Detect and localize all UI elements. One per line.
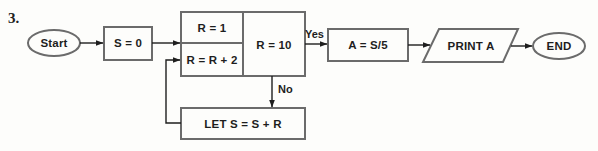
compute-a-node-label: A = S/5 bbox=[348, 39, 388, 51]
init-r-node-label: R = 1 bbox=[198, 22, 227, 34]
start-node-label: Start bbox=[40, 37, 67, 49]
end-node-label: END bbox=[547, 40, 572, 52]
test-r-node-label: R = 10 bbox=[256, 39, 291, 51]
no-edge-label: No bbox=[278, 83, 293, 95]
accumulate-node-label: LET S = S + R bbox=[204, 118, 281, 130]
print-a-node-label: PRINT A bbox=[448, 40, 495, 52]
increment-r-node-label: R = R + 2 bbox=[186, 54, 237, 66]
init-s-node-label: S = 0 bbox=[114, 37, 142, 49]
flowchart bbox=[0, 0, 598, 151]
yes-edge-label: Yes bbox=[305, 28, 324, 40]
arrow-feedback-to-increment bbox=[166, 60, 181, 123]
